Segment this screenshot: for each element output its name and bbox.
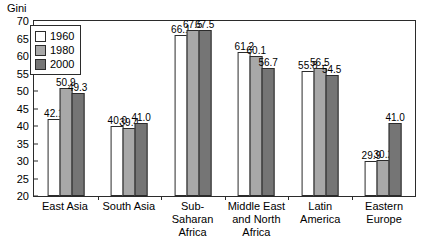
bar-value-label: 49.3 — [68, 82, 87, 93]
x-axis-category-label: South Asia — [97, 200, 161, 236]
bar-group-container: 42.150.949.340.039.441.066.167.567.561.2… — [34, 21, 415, 196]
legend-swatch-icon-1960 — [35, 31, 46, 42]
bar-stack: 40.039.441.0 — [111, 21, 148, 196]
bar-stack: 29.930.241.0 — [365, 21, 402, 196]
bar-2000: 41.0 — [135, 123, 148, 197]
bar-value-label: 67.5 — [195, 19, 214, 30]
bar-group: 29.930.241.0 — [352, 21, 416, 196]
y-axis-tick-label: 20 — [17, 191, 34, 202]
bar-group: 66.167.567.5 — [161, 21, 225, 196]
y-axis-tick-label: 25 — [17, 173, 34, 184]
bar-value-label: 56.7 — [258, 57, 277, 68]
bar-2000: 41.0 — [389, 123, 402, 197]
x-axis-category-label: Eastern Europe — [352, 200, 416, 236]
bar-group: 61.260.156.7 — [225, 21, 289, 196]
gini-bar-chart: Gini 7065605550454035302520 42.150.949.3… — [0, 0, 431, 237]
bar-group: 55.856.554.5 — [288, 21, 352, 196]
y-axis-title: Gini — [7, 2, 27, 14]
legend-swatch-icon-1980 — [35, 45, 46, 56]
x-axis-category-label: East Asia — [33, 200, 97, 236]
bar-group: 40.039.441.0 — [98, 21, 162, 196]
bar-value-label: 60.1 — [247, 45, 266, 56]
legend-item-2000: 2000 — [35, 57, 74, 71]
x-axis-label-container: East AsiaSouth AsiaSub-Saharan AfricaMid… — [33, 200, 416, 236]
bar-2000: 56.7 — [262, 68, 275, 196]
x-axis-category-label: Sub-Saharan Africa — [161, 200, 225, 236]
legend-label-1980: 1980 — [50, 44, 74, 56]
legend-label-2000: 2000 — [50, 58, 74, 70]
plot-area: 7065605550454035302520 42.150.949.340.03… — [33, 20, 416, 197]
legend-swatch-icon-2000 — [35, 59, 46, 70]
legend-item-1980: 1980 — [35, 43, 74, 57]
bar-2000: 54.5 — [325, 75, 338, 196]
chart-legend: 1960 1980 2000 — [30, 25, 81, 75]
bar-2000: 67.5 — [198, 30, 211, 196]
bar-stack: 55.856.554.5 — [301, 21, 338, 196]
y-axis-tick-label: 50 — [17, 86, 34, 97]
legend-item-1960: 1960 — [35, 29, 74, 43]
y-axis-tick-label: 40 — [17, 121, 34, 132]
bar-stack: 66.167.567.5 — [174, 21, 211, 196]
bar-value-label: 41.0 — [385, 112, 404, 123]
x-axis-category-label: Middle East and North Africa — [224, 200, 288, 236]
y-axis-tick-label: 45 — [17, 103, 34, 114]
y-axis-tick-label: 30 — [17, 156, 34, 167]
bar-stack: 61.260.156.7 — [238, 21, 275, 196]
bar-value-label: 54.5 — [322, 64, 341, 75]
y-axis-tick-label: 35 — [17, 138, 34, 149]
x-axis-category-label: Latin America — [288, 200, 352, 236]
legend-label-1960: 1960 — [50, 30, 74, 42]
bar-2000: 49.3 — [71, 93, 84, 196]
bar-value-label: 41.0 — [131, 112, 150, 123]
